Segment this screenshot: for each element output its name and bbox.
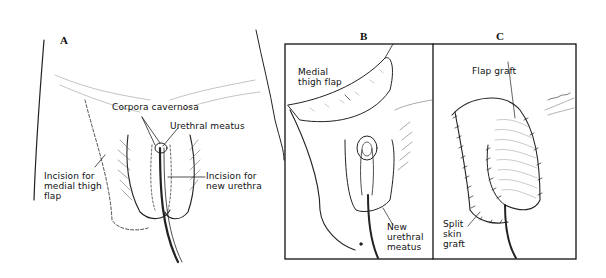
label-split-skin-graft: Split skin graft bbox=[443, 219, 465, 249]
label-incision-medial-thigh-flap: Incision for medial thigh flap bbox=[44, 171, 102, 201]
label-new-urethral-meatus: New urethral meatus bbox=[387, 222, 424, 252]
panel-label-a: A bbox=[60, 34, 68, 46]
line-drawing bbox=[0, 0, 606, 278]
surgical-illustration-figure: A B C Corpora cavernosa Urethral meatus … bbox=[0, 0, 606, 278]
panel-label-c: C bbox=[496, 30, 504, 42]
label-corpora-cavernosa: Corpora cavernosa bbox=[112, 102, 199, 112]
panel-label-b: B bbox=[360, 30, 367, 42]
label-incision-new-urethra: Incision for new urethra bbox=[206, 171, 262, 191]
label-flap-graft: Flap graft bbox=[472, 66, 516, 76]
label-medial-thigh-flap: Medial thigh flap bbox=[298, 67, 342, 87]
label-urethral-meatus: Urethral meatus bbox=[170, 121, 245, 131]
